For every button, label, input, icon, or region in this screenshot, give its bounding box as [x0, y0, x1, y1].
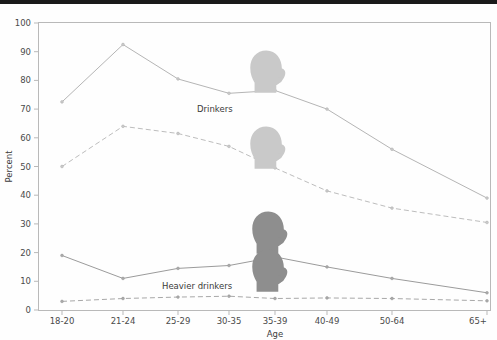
- series-point: [177, 78, 180, 81]
- head-silhouette-icon: [250, 50, 285, 92]
- series-point: [61, 254, 64, 257]
- series-point: [228, 264, 231, 267]
- series-point: [177, 132, 180, 135]
- series-point: [326, 108, 329, 111]
- y-axis-ticks: [34, 23, 38, 310]
- series-point: [122, 277, 125, 280]
- series-point: [122, 125, 125, 128]
- y-tick-label: 80: [20, 75, 31, 85]
- y-axis-title: Percent: [4, 150, 14, 183]
- series-point: [228, 92, 231, 95]
- x-tick-label: 35-39: [263, 316, 288, 326]
- y-tick-label: 30: [20, 219, 31, 229]
- series-point: [486, 299, 489, 302]
- series-annotation-drinkers: Drinkers: [197, 104, 233, 114]
- series-point: [177, 267, 180, 270]
- x-tick-label: 18-20: [50, 316, 75, 326]
- y-tick-label: 60: [20, 133, 31, 143]
- series-point: [122, 297, 125, 300]
- series-annotation-heavier-drinkers: Heavier drinkers: [162, 281, 233, 291]
- series-point: [391, 297, 394, 300]
- series-point: [391, 277, 394, 280]
- y-tick-label: 100: [15, 18, 31, 28]
- x-axis-title: Age: [267, 329, 283, 339]
- y-tick-label: 90: [20, 47, 31, 57]
- series-point: [391, 207, 394, 210]
- x-tick-label: 50-64: [380, 316, 405, 326]
- y-tick-label: 50: [20, 162, 31, 172]
- series-point: [486, 197, 489, 200]
- y-tick-label: 0: [26, 305, 31, 315]
- series-point: [326, 266, 329, 269]
- series-point: [228, 295, 231, 298]
- chart-figure: 100 90 80 70 60 50 40 30 20 10 0 Percent…: [0, 0, 497, 340]
- x-tick-label: 25-29: [166, 316, 191, 326]
- series-point: [486, 291, 489, 294]
- line-chart-canvas: 100 90 80 70 60 50 40 30 20 10 0 Percent…: [0, 0, 497, 340]
- x-tick-label: 40-49: [315, 316, 340, 326]
- y-tick-label: 10: [20, 276, 31, 286]
- series-point: [274, 297, 277, 300]
- head-silhouette-icon: [252, 249, 287, 291]
- series-point: [486, 221, 489, 224]
- series-point: [122, 43, 125, 46]
- y-tick-label: 70: [20, 104, 31, 114]
- x-tick-label: 30-35: [217, 316, 242, 326]
- x-tick-label: 65+: [469, 316, 487, 326]
- series-point: [61, 165, 64, 168]
- series-point: [61, 300, 64, 303]
- y-tick-label: 40: [20, 190, 31, 200]
- series-point: [391, 148, 394, 151]
- series-point: [228, 145, 231, 148]
- y-tick-label: 20: [20, 248, 31, 258]
- series-point: [61, 101, 64, 104]
- series-point: [177, 296, 180, 299]
- head-silhouette-icon: [250, 126, 285, 168]
- x-tick-label: 21-24: [111, 316, 136, 326]
- series-point: [326, 297, 329, 300]
- head-silhouette-icon: [252, 211, 287, 253]
- series-point: [326, 189, 329, 192]
